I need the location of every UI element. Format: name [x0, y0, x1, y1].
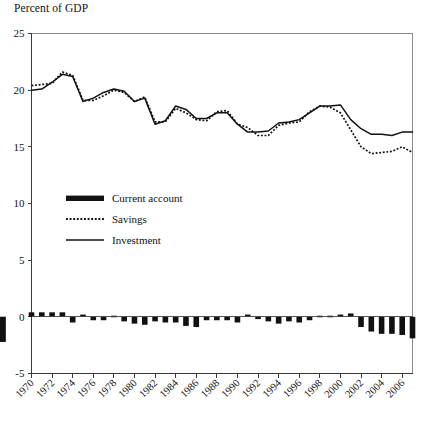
legend-swatch-current-account — [66, 196, 104, 201]
x-tick-label: 1992 — [240, 377, 263, 400]
x-tick-label: 1986 — [178, 377, 201, 400]
bar-current-account — [410, 317, 416, 339]
x-tick-label: 1982 — [137, 377, 160, 400]
chart-figure: Percent of GDP 2520151050-5 197019721974… — [0, 0, 433, 429]
x-tick-label: 1976 — [75, 377, 98, 400]
bar-current-account — [214, 317, 220, 320]
bar-current-account — [286, 317, 292, 322]
bar-current-account — [379, 317, 385, 334]
x-tick-label: 1984 — [157, 377, 180, 400]
legend-label: Investment — [112, 234, 161, 246]
chart-plot-area: 2520151050-5 197019721974197619781980198… — [0, 0, 433, 429]
bar-current-account — [204, 317, 210, 320]
y-tick-label: 5 — [19, 254, 25, 266]
bar-current-account — [193, 317, 199, 327]
bar-current-account — [399, 317, 405, 335]
bar-current-account — [276, 317, 282, 324]
bar-current-account — [60, 312, 66, 317]
bar-current-account — [173, 317, 179, 323]
x-axis-ticks: 1970197219741976197819801982198419861988… — [13, 374, 406, 400]
y-tick-label: 15 — [14, 141, 26, 153]
x-tick-label: 1990 — [219, 377, 242, 400]
bar-current-account — [152, 317, 158, 322]
bar-current-account — [296, 317, 302, 323]
plot-frame — [32, 34, 413, 374]
x-tick-label: 1998 — [302, 377, 325, 400]
bar-current-account — [266, 317, 272, 322]
bar-current-account — [389, 317, 395, 334]
y-tick-label: -5 — [15, 367, 25, 379]
y-tick-label: 25 — [14, 27, 26, 39]
bar-current-account — [307, 317, 313, 320]
x-tick-label: 2002 — [343, 377, 366, 400]
bar-current-account — [163, 317, 169, 323]
bar-current-account — [348, 313, 354, 316]
x-tick-label: 2006 — [384, 377, 407, 400]
bar-current-account — [358, 317, 364, 327]
bar-current-account — [0, 317, 6, 342]
x-tick-label: 1994 — [260, 377, 283, 400]
x-tick-label: 1996 — [281, 377, 304, 400]
bar-current-account — [183, 317, 189, 326]
y-tick-label: 10 — [14, 197, 26, 209]
bar-current-account — [39, 312, 45, 317]
bar-current-account — [49, 312, 55, 317]
bar-current-account — [132, 317, 138, 324]
x-tick-label: 1988 — [199, 377, 222, 400]
bar-current-account — [369, 317, 375, 332]
y-tick-label: 0 — [19, 311, 25, 323]
chart-legend: Current accountSavingsInvestment — [66, 192, 183, 246]
bar-current-account — [70, 317, 76, 323]
y-tick-label: 20 — [14, 84, 26, 96]
bar-current-account — [101, 317, 107, 320]
x-tick-label: 1970 — [13, 377, 36, 400]
bar-current-account — [29, 312, 35, 317]
x-tick-label: 1980 — [116, 377, 139, 400]
bar-current-account — [142, 317, 148, 325]
y-axis-ticks: 2520151050-5 — [14, 27, 32, 379]
x-tick-label: 1972 — [34, 377, 57, 400]
legend-label: Savings — [112, 213, 147, 225]
series-line-investment — [32, 74, 413, 135]
legend-label: Current account — [112, 192, 183, 204]
bar-current-account — [121, 317, 127, 322]
bar-current-account — [224, 317, 230, 320]
series-lines — [32, 72, 413, 154]
bar-current-account — [235, 317, 241, 323]
x-tick-label: 2004 — [363, 377, 386, 400]
bar-current-account — [90, 317, 96, 320]
x-tick-label: 2000 — [322, 377, 345, 400]
x-tick-label: 1974 — [54, 377, 77, 400]
x-tick-label: 1978 — [96, 377, 119, 400]
